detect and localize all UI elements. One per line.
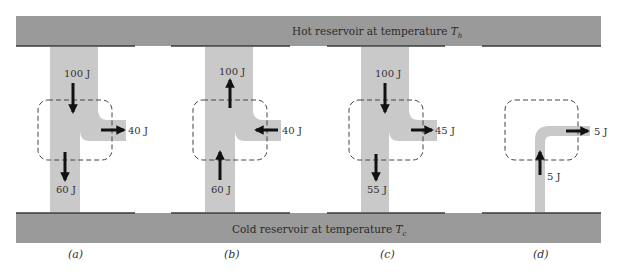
flow-label-side: 5 J: [594, 126, 608, 137]
flow-label-bottom: 55 J: [367, 184, 387, 195]
flow-label-bottom: 5 J: [547, 171, 561, 182]
cold-reservoir: Cold reservoir at temperature Tc: [16, 213, 601, 243]
flow-label-top: 100 J: [219, 66, 245, 77]
caption: (a): [68, 248, 83, 261]
energy-pipe: [535, 126, 590, 212]
flow-label-side: 40 J: [128, 125, 148, 136]
caption: (b): [224, 248, 240, 261]
hot-reservoir: Hot reservoir at temperature Th: [16, 16, 601, 46]
heat-engine-diagram: Hot reservoir at temperature Th Cold res…: [0, 0, 617, 278]
flow-label-side: 45 J: [435, 125, 455, 136]
flow-label-side: 40 J: [282, 125, 302, 136]
flow-label-bottom: 60 J: [56, 184, 76, 195]
caption: (d): [533, 248, 549, 261]
caption: (c): [380, 248, 395, 261]
flow-label-top: 100 J: [64, 68, 90, 79]
flow-label-top: 100 J: [375, 68, 401, 79]
flow-label-bottom: 60 J: [211, 184, 231, 195]
